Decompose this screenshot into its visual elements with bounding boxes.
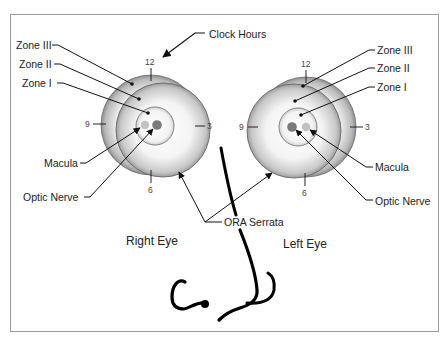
left-optic-nerve-label: Optic Nerve	[375, 195, 430, 207]
left-optic-nerve-dot	[287, 122, 297, 132]
right-macula-label: Macula	[44, 157, 78, 169]
left-zone3-label: Zone III	[377, 44, 413, 56]
right-eye-title: Right Eye	[126, 234, 178, 248]
left-zone2-label: Zone II	[377, 62, 410, 74]
nose-sketch	[172, 148, 274, 320]
clock-hours-label: Clock Hours	[209, 28, 266, 40]
right-optic-nerve-dot	[152, 120, 162, 130]
left-zone1-label: Zone I	[377, 81, 407, 93]
right-clock-3: 3	[207, 121, 212, 131]
left-clock-6: 6	[302, 188, 307, 198]
right-eye-fundus	[52, 45, 210, 197]
left-clock-9: 9	[239, 122, 244, 132]
left-macula-label: Macula	[375, 161, 409, 173]
left-eye-title: Left Eye	[283, 237, 327, 251]
right-macula-dot	[141, 121, 149, 129]
ora-serrata-arrow-left	[205, 173, 272, 222]
right-clock-9: 9	[85, 119, 90, 129]
clock-hours-arrow	[163, 33, 205, 57]
left-zone1-circle	[279, 108, 317, 146]
right-zone3-label: Zone III	[16, 39, 52, 51]
right-zone2-label: Zone II	[19, 58, 52, 70]
left-clock-12: 12	[301, 59, 310, 69]
right-clock-12: 12	[145, 57, 154, 67]
left-clock-3: 3	[365, 122, 370, 132]
left-macula-dot	[302, 123, 310, 131]
ora-serrata-label: ORA Serrata	[224, 216, 284, 228]
right-optic-nerve-label: Optic Nerve	[23, 191, 78, 203]
right-clock-6: 6	[148, 185, 153, 195]
right-zone1-label: Zone I	[22, 77, 52, 89]
